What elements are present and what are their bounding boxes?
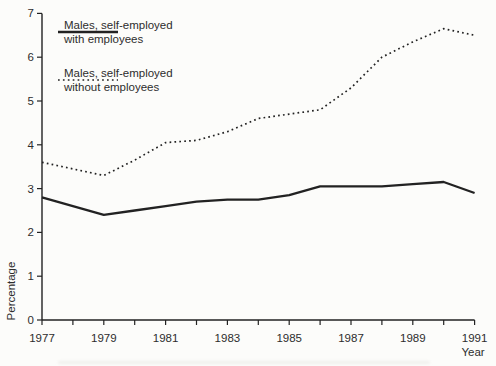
y-tick-label: 4 (28, 139, 35, 151)
y-axis-title: Percentage (5, 262, 17, 321)
series-line-with-employees (42, 182, 475, 215)
legend-line-solid-icon (58, 19, 118, 47)
x-tick-label: 1983 (215, 332, 241, 344)
y-tick-label: 5 (28, 95, 34, 107)
series-line-without-employees (42, 29, 475, 176)
x-tick-label: 1987 (338, 332, 364, 344)
series-layer (42, 29, 475, 215)
x-tick-label: 1985 (276, 332, 302, 344)
y-tick-label: 7 (28, 7, 34, 19)
x-tick-label: 1991 (462, 332, 488, 344)
figure: 0123456719771979198119831985198719891991… (0, 0, 496, 366)
x-tick-label: 1977 (29, 332, 55, 344)
scan-artifact (58, 361, 430, 364)
x-tick-label: 1979 (91, 332, 117, 344)
legend-line-dotted-icon (58, 67, 118, 95)
y-tick-label: 0 (28, 314, 34, 326)
x-tick-label: 1981 (153, 332, 179, 344)
y-tick-label: 6 (28, 51, 34, 63)
y-tick-label: 2 (28, 226, 34, 238)
legend-entry-without-employees: Males, self-employed without employees (58, 67, 173, 94)
axes: 0123456719771979198119831985198719891991 (28, 7, 488, 344)
y-tick-label: 3 (28, 183, 34, 195)
legend-entry-with-employees: Males, self-employed with employees (58, 19, 173, 46)
x-tick-label: 1989 (400, 332, 426, 344)
x-axis-title: Year (461, 346, 484, 358)
line-chart: 0123456719771979198119831985198719891991… (0, 0, 496, 366)
y-tick-label: 1 (28, 270, 34, 282)
